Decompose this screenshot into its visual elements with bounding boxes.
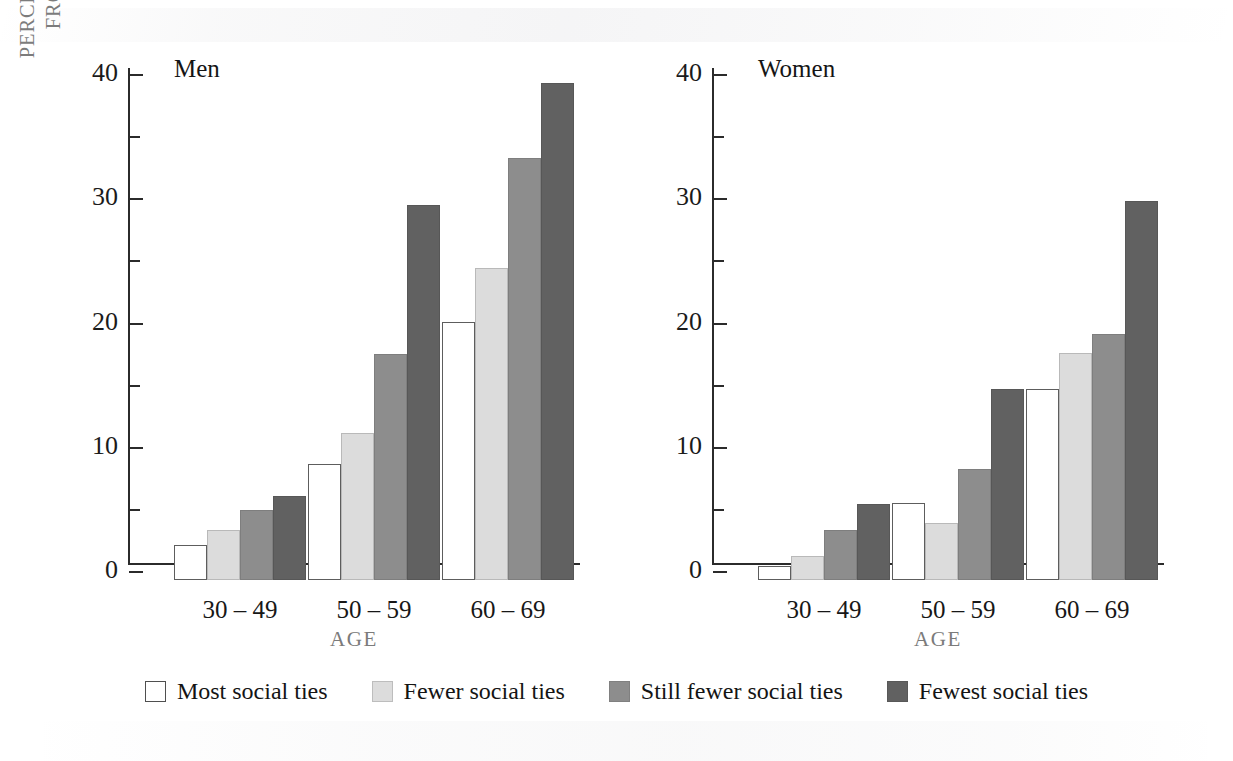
bar — [1059, 353, 1092, 580]
y-tick-0: 0 — [129, 571, 143, 573]
x-tick-label: 30 – 49 — [758, 595, 890, 625]
bar — [1092, 334, 1125, 580]
bar-group: 30 – 49 — [758, 83, 890, 580]
bar — [273, 496, 306, 580]
y-tick-minor-35 — [129, 136, 140, 138]
panel-title-men: Men — [174, 56, 220, 81]
legend-item[interactable]: Most social ties — [145, 678, 328, 704]
y-tick-label-40: 40 — [92, 59, 118, 87]
legend-label: Still fewer social ties — [641, 678, 843, 704]
bars — [1026, 83, 1158, 580]
legend-swatch-icon — [887, 681, 908, 702]
y-tick-20: 20 — [129, 323, 143, 325]
y-tick-label-0: 0 — [105, 556, 118, 584]
bars — [442, 83, 574, 580]
bar — [958, 469, 991, 580]
bar — [1026, 389, 1059, 580]
y-tick-label-40: 40 — [676, 59, 702, 87]
y-tick-label-0: 0 — [689, 556, 702, 584]
bar — [374, 354, 407, 580]
bar — [1125, 201, 1158, 580]
chart-figure: PERCENTAGE WHO DIED FROM ALL CAUSES Men … — [0, 0, 1233, 761]
legend-label: Fewer social ties — [404, 678, 565, 704]
x-tick-label: 60 – 69 — [442, 595, 574, 625]
bar — [508, 158, 541, 580]
y-tick-20: 20 — [713, 323, 727, 325]
x-tick-label: 50 – 59 — [892, 595, 1024, 625]
y-tick-10: 10 — [713, 447, 727, 449]
bar-group: 50 – 59 — [892, 83, 1024, 580]
y-tick-label-30: 30 — [676, 183, 702, 211]
y-tick-label-10: 10 — [676, 432, 702, 460]
bar-group: 30 – 49 — [174, 83, 306, 580]
bars — [308, 83, 440, 580]
bar — [174, 545, 207, 580]
x-tick-label: 50 – 59 — [308, 595, 440, 625]
y-tick-10: 10 — [129, 447, 143, 449]
y-tick-30: 30 — [713, 198, 727, 200]
x-tick-label: 30 – 49 — [174, 595, 306, 625]
panel-men: Men 010203040 30 – 4950 – 5960 – 69 AGE — [128, 60, 598, 580]
y-tick-label-20: 20 — [676, 308, 702, 336]
legend-swatch-icon — [145, 681, 166, 702]
y-tick-40: 40 — [713, 74, 727, 76]
panel-women: Women 010203040 30 – 4950 – 5960 – 69 AG… — [712, 60, 1182, 580]
y-tick-minor-25 — [713, 260, 724, 262]
y-tick-label-10: 10 — [92, 432, 118, 460]
legend-item[interactable]: Fewest social ties — [887, 678, 1088, 704]
bar — [758, 566, 791, 580]
bar — [541, 83, 574, 580]
legend-item[interactable]: Fewer social ties — [372, 678, 565, 704]
bar-group: 60 – 69 — [442, 83, 574, 580]
chart-legend: Most social tiesFewer social tiesStill f… — [0, 678, 1233, 704]
y-tick-minor-5 — [129, 509, 140, 511]
bar — [892, 503, 925, 580]
y-tick-40: 40 — [129, 74, 143, 76]
x-axis-title-women: AGE — [712, 627, 1164, 652]
bar-group: 50 – 59 — [308, 83, 440, 580]
bar — [240, 510, 273, 580]
legend-item[interactable]: Still fewer social ties — [609, 678, 843, 704]
y-axis-line-women — [712, 68, 714, 565]
y-tick-minor-5 — [713, 509, 724, 511]
y-axis-title: PERCENTAGE WHO DIED FROM ALL CAUSES — [14, 0, 66, 120]
bar — [341, 433, 374, 580]
legend-label: Most social ties — [177, 678, 328, 704]
bar — [824, 530, 857, 580]
y-tick-minor-35 — [713, 136, 724, 138]
y-axis-line-men — [128, 68, 130, 565]
bar — [442, 322, 475, 580]
legend-label: Fewest social ties — [919, 678, 1088, 704]
bar — [991, 389, 1024, 580]
y-tick-minor-15 — [713, 385, 724, 387]
bar-group: 60 – 69 — [1026, 83, 1158, 580]
y-tick-minor-25 — [129, 260, 140, 262]
y-tick-30: 30 — [129, 198, 143, 200]
y-tick-label-30: 30 — [92, 183, 118, 211]
bars — [174, 83, 306, 580]
bars — [892, 83, 1024, 580]
x-axis-title-men: AGE — [128, 627, 580, 652]
legend-swatch-icon — [609, 681, 630, 702]
bar — [925, 523, 958, 580]
y-tick-minor-15 — [129, 385, 140, 387]
y-tick-label-20: 20 — [92, 308, 118, 336]
bar — [207, 530, 240, 580]
bars — [758, 83, 890, 580]
bar — [857, 504, 890, 580]
bar — [475, 268, 508, 580]
bar — [308, 464, 341, 580]
bar — [407, 205, 440, 580]
legend-swatch-icon — [372, 681, 393, 702]
panel-title-women: Women — [758, 56, 835, 81]
y-tick-0: 0 — [713, 571, 727, 573]
bar — [791, 556, 824, 580]
x-tick-label: 60 – 69 — [1026, 595, 1158, 625]
